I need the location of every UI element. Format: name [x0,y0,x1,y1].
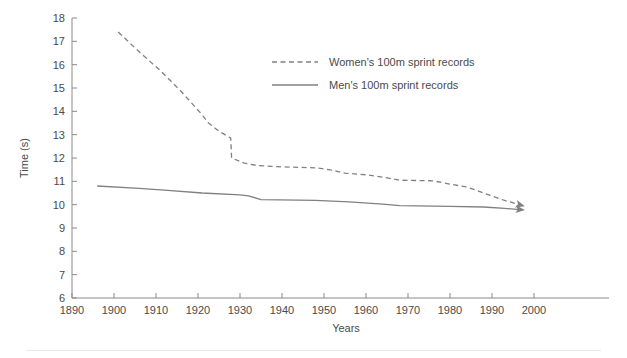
x-axis-tick-label: 1950 [312,304,336,316]
y-axis-tick-labels: 6789101112131415161718 [53,12,65,304]
y-axis-title: Time (s) [18,138,30,178]
series-line-men [97,186,523,210]
y-axis-tick-label: 11 [54,175,65,187]
y-axis-tick-label: 17 [53,35,65,47]
y-axis-tick-label: 14 [53,105,65,117]
x-axis-tick-label: 1890 [60,304,84,316]
y-axis-tick-label: 10 [53,199,65,211]
x-axis-tick-labels: 1890190019101920193019401950196019701980… [60,304,546,316]
y-axis-tick-label: 8 [59,245,65,257]
line-chart: 6789101112131415161718 18901900191019201… [0,0,627,358]
y-axis-tick-label: 6 [59,292,65,304]
y-axis-tick-label: 13 [53,129,65,141]
x-axis-tick-label: 1970 [396,304,420,316]
x-axis-tick-label: 1910 [144,304,168,316]
legend-label-men: Men's 100m sprint records [329,79,459,91]
x-axis-tick-label: 1990 [480,304,504,316]
legend-label-women: Women's 100m sprint records [329,56,475,68]
y-axis-tick-label: 9 [59,222,65,234]
footer-divider [26,350,601,351]
y-axis-ticks [72,18,77,298]
y-axis-tick-label: 15 [53,82,65,94]
y-axis-tick-label: 18 [53,12,65,24]
chart-legend: Women's 100m sprint recordsMen's 100m sp… [272,56,475,91]
y-axis-tick-label: 7 [59,269,65,281]
x-axis-ticks [72,293,534,298]
x-axis-tick-label: 1940 [270,304,294,316]
x-axis-tick-label: 1960 [354,304,378,316]
x-axis-tick-label: 1930 [228,304,252,316]
x-axis-tick-label: 1900 [102,304,126,316]
chart-figure: 6789101112131415161718 18901900191019201… [0,0,627,358]
x-axis-tick-label: 2000 [522,304,546,316]
x-axis-title: Years [332,322,360,334]
y-axis-tick-label: 16 [53,59,65,71]
x-axis-tick-label: 1920 [186,304,210,316]
x-axis-tick-label: 1980 [438,304,462,316]
y-axis-tick-label: 12 [53,152,65,164]
